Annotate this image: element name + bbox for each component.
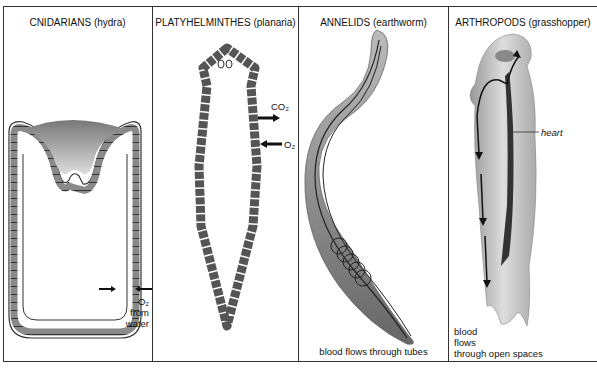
o2-text: O₂ — [125, 296, 149, 307]
o2-label: O₂ — [284, 139, 295, 150]
co2-label: CO₂ — [271, 101, 289, 112]
water-text: water — [125, 318, 149, 329]
grasshopper-illustration — [449, 6, 597, 362]
arthropod-caption: blood flows through open spaces — [454, 326, 543, 359]
caption-line: through open spaces — [454, 348, 543, 359]
caption-line: blood — [454, 326, 543, 337]
caption-line: flows — [454, 337, 543, 348]
panel-arthropods: ARTHROPODS (grasshopper) heart blood flo… — [449, 6, 597, 362]
panel-cnidarians: CNIDARIANS (hydra) O₂ from water — [3, 6, 152, 362]
annelid-caption: blood flows through tubes — [299, 346, 448, 357]
o2-label: O₂ from water — [125, 296, 149, 329]
planaria-illustration — [153, 6, 298, 362]
panel-annelids: ANNELIDS (earthworm) blood flows through… — [299, 6, 448, 362]
earthworm-illustration — [299, 6, 448, 362]
from-text: from — [125, 307, 149, 318]
heart-label: heart — [541, 127, 563, 138]
panel-platyhelminthes: PLATYHELMINTHES (planaria) CO₂ O₂ — [153, 6, 298, 362]
